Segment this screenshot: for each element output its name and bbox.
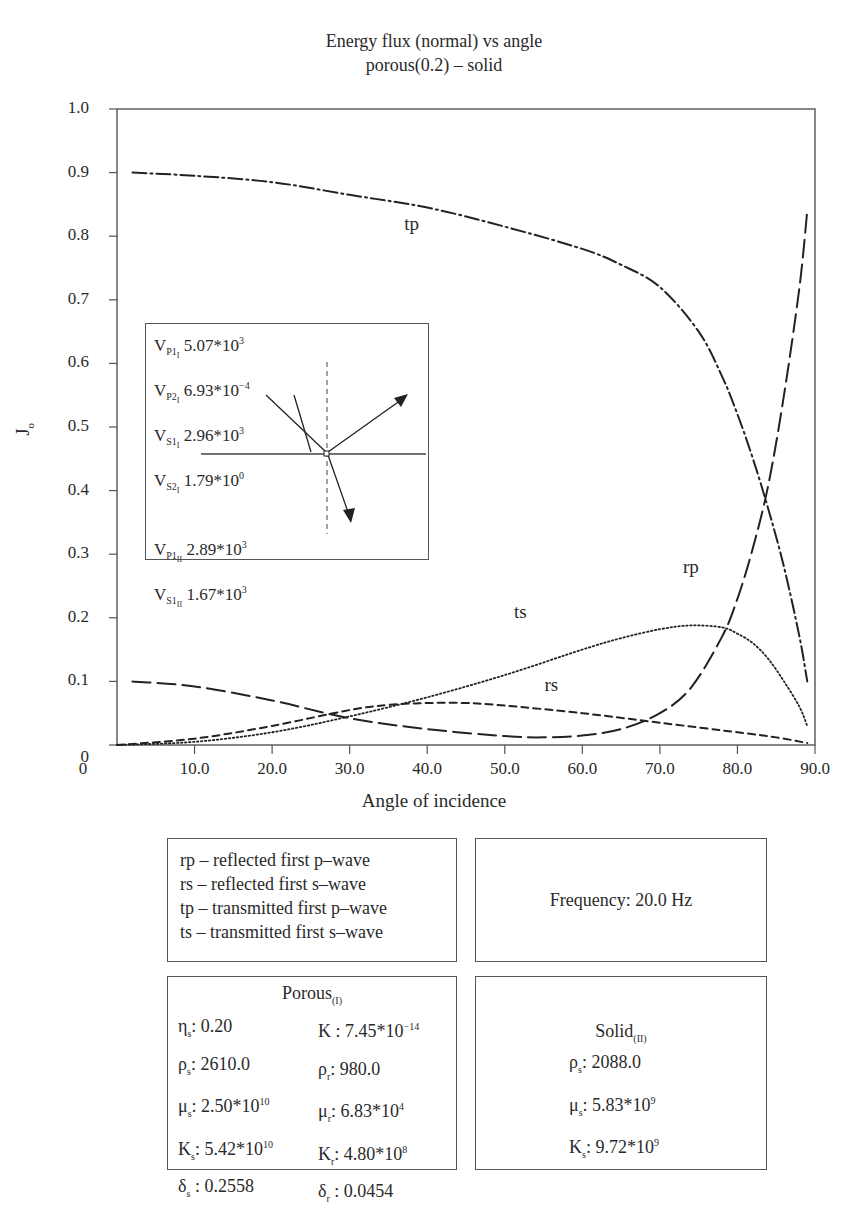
param-row: ρs: 2610.0	[178, 1049, 273, 1087]
ray-diagram	[146, 324, 430, 561]
curve-label-rp: rp	[683, 556, 699, 577]
param-row: ρs: 2088.0	[569, 1047, 659, 1085]
velocity-inset: VP1I 5.07*103VP2I 6.93*10−4VS1I 2.96*103…	[145, 323, 429, 560]
plot-area: tprptsrs	[0, 0, 868, 800]
x-tick-label: 80.0	[707, 759, 767, 779]
y-tick-label: 0.7	[49, 289, 89, 309]
param-row: Ks: 5.42*1010	[178, 1129, 273, 1172]
curve-label-ts: ts	[514, 601, 527, 622]
x-tick-label: 60.0	[552, 759, 612, 779]
param-row: δs : 0.2558	[178, 1171, 273, 1209]
y-tick-label: 0.1	[49, 670, 89, 690]
x-tick-label: 90.0	[785, 759, 845, 779]
porous-right-column: K : 7.45*10−14ρr: 980.0μr: 6.83*104Kr: 4…	[318, 1011, 419, 1214]
y-tick-label: 0.2	[49, 607, 89, 627]
x-tick-label: 40.0	[397, 759, 457, 779]
curve-label-rs: rs	[544, 674, 558, 695]
series-ts-line	[117, 625, 807, 745]
solid-params-box: Solid(II) ρs: 2088.0μs: 5.83*109Ks: 9.72…	[475, 976, 767, 1170]
param-row: μs: 5.83*109	[569, 1085, 659, 1128]
y-tick-label: 0.4	[49, 480, 89, 500]
curve-label-tp: tp	[404, 213, 419, 234]
x-tick-label: 0	[68, 759, 98, 779]
param-row: K : 7.45*10−14	[318, 1011, 419, 1054]
y-tick-label: 0.8	[49, 225, 89, 245]
legend-item-rp: rp – reflected first p–wave	[180, 848, 456, 872]
legend-item-rs: rs – reflected first s–wave	[180, 872, 456, 896]
solid-params-list: ρs: 2088.0μs: 5.83*109Ks: 9.72*109	[569, 1047, 659, 1170]
x-axis-label: Angle of incidence	[0, 790, 868, 812]
param-row: μs: 2.50*1010	[178, 1086, 273, 1129]
x-tick-label: 20.0	[242, 759, 302, 779]
porous-params-box: Porous(I) ηs: 0.20ρs: 2610.0μs: 2.50*101…	[167, 976, 457, 1170]
x-tick-label: 70.0	[630, 759, 690, 779]
solid-title: Solid(II)	[476, 1021, 766, 1044]
legend-box: rp – reflected first p–wave rs – reflect…	[167, 838, 457, 962]
y-tick-label: 0.3	[49, 543, 89, 563]
param-row: δr : 0.0454	[318, 1176, 419, 1214]
porous-title: Porous(I)	[168, 983, 456, 1006]
y-tick-label: 1.0	[49, 98, 89, 118]
param-row: μr: 6.83*104	[318, 1091, 419, 1134]
y-tick-label: 0.5	[49, 416, 89, 436]
y-tick-label: 0.9	[49, 162, 89, 182]
param-row: ρr: 980.0	[318, 1054, 419, 1092]
porous-left-column: ηs: 0.20ρs: 2610.0μs: 2.50*1010Ks: 5.42*…	[178, 1011, 273, 1209]
param-row: ηs: 0.20	[178, 1011, 273, 1049]
param-row: Kr: 4.80*108	[318, 1134, 419, 1177]
x-tick-label: 30.0	[320, 759, 380, 779]
param-row: Ks: 9.72*109	[569, 1127, 659, 1170]
x-tick-label: 50.0	[475, 759, 535, 779]
y-tick-label: 0.6	[49, 352, 89, 372]
x-tick-label: 10.0	[165, 759, 225, 779]
frequency-box: Frequency: 20.0 Hz	[475, 838, 767, 962]
frequency-text: Frequency: 20.0 Hz	[550, 890, 692, 911]
legend-item-ts: ts – transmitted first s–wave	[180, 920, 456, 944]
velocity-row: VS1II 1.67*103	[154, 575, 250, 620]
legend-item-tp: tp – transmitted first p–wave	[180, 896, 456, 920]
